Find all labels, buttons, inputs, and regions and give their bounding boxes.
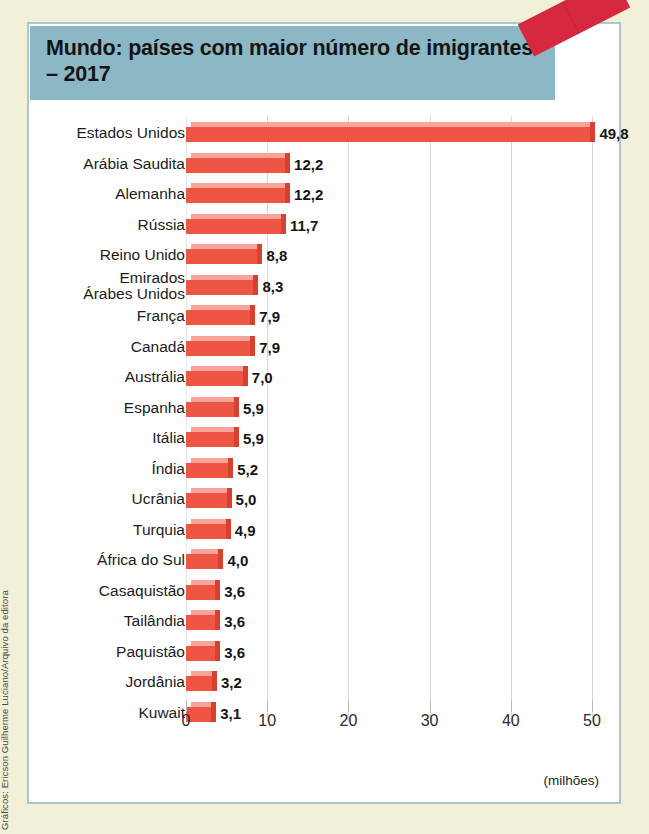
bar-row: França7,9 [27,301,621,332]
image-credit: Gráficos: Ericson Guilherme Luciano/Arqu… [0,490,10,830]
bar-end-face [590,122,595,142]
bar-value-label: 5,0 [236,491,257,508]
bar-value-label: 3,2 [221,674,242,691]
bar-top-face [191,488,227,493]
category-label: Espanha [0,400,185,416]
bar-end-face [227,488,232,508]
bar-end-face [250,336,255,356]
bar-end-face [215,580,220,600]
bar-top-face [191,427,234,432]
category-label: Arábia Saudita [0,156,185,172]
bar-end-face [234,397,239,417]
bar-end-face [253,275,258,295]
x-tick-0 [186,700,187,712]
bar-end-face [285,153,290,173]
bar-top-face [191,153,285,158]
bar-row: Casaquistão3,6 [27,576,621,607]
category-label: Índia [0,461,185,477]
bar-container [186,641,221,663]
bar-container [186,488,233,510]
x-tick-40 [511,700,512,712]
bar-row: Estados Unidos49,8 [27,118,621,149]
category-label: Austrália [0,369,185,385]
bar-end-face [281,214,286,234]
bar-container [186,397,240,419]
bar-row: Ucrânia5,0 [27,484,621,515]
category-label: França [0,308,185,324]
bar-end-face [218,549,223,569]
bar-top-face [191,122,590,127]
bar-row: Alemanha12,2 [27,179,621,210]
bar-top-face [191,183,285,188]
bar-end-face [234,427,239,447]
bar-end-face [212,671,217,691]
category-label: Rússia [0,217,185,233]
bar [186,158,285,173]
bar-top-face [191,305,250,310]
bar-value-label: 49,8 [599,125,628,142]
bar-top-face [191,366,243,371]
bar-container [186,153,291,175]
bar-end-face [215,610,220,630]
bar-row: Índia5,2 [27,454,621,485]
x-tick-10 [267,700,268,712]
category-label: Casaquistão [0,583,185,599]
category-label: Estados Unidos [0,125,185,141]
bar-row: Turquia4,9 [27,515,621,546]
bar-value-label: 4,9 [235,521,256,538]
bar-container [186,366,249,388]
bar-value-label: 7,9 [259,338,280,355]
bar [186,432,234,447]
x-tick-label-0: 0 [182,712,191,730]
bar-end-face [285,183,290,203]
bar-row: Paquistão3,6 [27,637,621,668]
bar-value-label: 3,6 [224,643,245,660]
bar-row: Emirados Árabes Unidos8,3 [27,271,621,302]
bar [186,127,590,142]
bar-top-face [191,702,211,707]
bar-container [186,183,291,205]
x-tick-30 [430,700,431,712]
bar-row: África do Sul4,0 [27,545,621,576]
bar-top-face [191,214,281,219]
bar-container [186,336,256,358]
bar-top-face [191,519,226,524]
x-tick-label-40: 40 [502,712,520,730]
category-label: Reino Unido [0,247,185,263]
bar-top-face [191,580,215,585]
x-tick-label-50: 50 [583,712,601,730]
bar-container [186,122,596,144]
x-tick-20 [348,700,349,712]
category-label: Emirados Árabes Unidos [0,270,185,302]
bar-container [186,427,240,449]
bar-container [186,244,263,266]
bar-row: Itália5,9 [27,423,621,454]
bar-top-face [191,458,228,463]
bar-row: Austrália7,0 [27,362,621,393]
bar-top-face [191,641,215,646]
category-label: Canadá [0,339,185,355]
bar-top-face [191,671,212,676]
bar-top-face [191,549,218,554]
bar-end-face [257,244,262,264]
bar-row: Arábia Saudita12,2 [27,149,621,180]
bar-value-label: 12,2 [294,155,323,172]
bar [186,585,215,600]
bar [186,676,212,691]
bar-container [186,549,224,571]
bar-row: Espanha5,9 [27,393,621,424]
bar-container [186,671,218,693]
bar-value-label: 4,0 [227,552,248,569]
bar-top-face [191,275,253,280]
bar-value-label: 7,0 [252,369,273,386]
bar-row: Reino Unido8,8 [27,240,621,271]
bar-container [186,275,259,297]
bar-top-face [191,397,234,402]
bar [186,371,243,386]
bar [186,493,227,508]
category-label: Alemanha [0,186,185,202]
bar-top-face [191,610,215,615]
category-label: Tailândia [0,613,185,629]
bar-row: Jordânia3,2 [27,667,621,698]
bar-value-label: 8,8 [266,247,287,264]
